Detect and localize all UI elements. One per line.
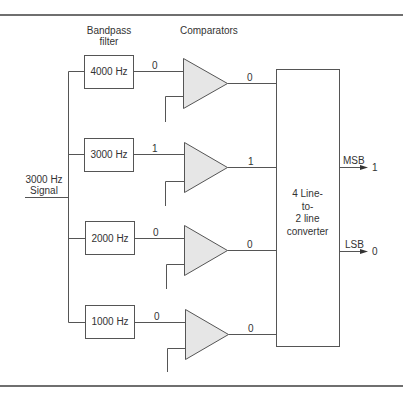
filter-header-line1: Bandpass xyxy=(84,25,134,36)
filter-header-line2: filter xyxy=(84,36,134,47)
reference-input-4 xyxy=(168,349,186,373)
filter-output-value-4: 0 xyxy=(154,311,160,322)
converter-line2: to- xyxy=(276,201,339,214)
lsb-label: LSB xyxy=(345,239,364,250)
comparator-4 xyxy=(186,310,229,360)
converter-label: 4 Line- to- 2 line converter xyxy=(276,188,339,238)
comparator-1 xyxy=(184,59,228,109)
comparator-output-value-3: 0 xyxy=(247,239,253,250)
comparator-2 xyxy=(185,143,228,193)
diagram-canvas xyxy=(0,0,407,394)
filter-label-1000: 1000 Hz xyxy=(85,316,135,327)
converter-line4: converter xyxy=(276,226,339,239)
comparator-output-value-1: 0 xyxy=(247,72,253,83)
filter-label-2000: 2000 Hz xyxy=(85,233,135,244)
filter-output-value-3: 0 xyxy=(153,227,159,238)
comparator-3 xyxy=(185,226,228,276)
reference-input-1 xyxy=(166,97,184,123)
comparator-output-value-2: 1 xyxy=(248,156,254,167)
converter-line3: 2 line xyxy=(276,213,339,226)
msb-label: MSB xyxy=(343,155,365,166)
input-signal-line2: Signal xyxy=(22,185,66,196)
msb-value: 1 xyxy=(372,162,378,173)
input-signal-label: 3000 Hz Signal xyxy=(22,174,66,196)
filter-output-value-2: 1 xyxy=(152,143,158,154)
filter-label-3000: 3000 Hz xyxy=(84,149,134,160)
filter-output-value-1: 0 xyxy=(152,60,158,71)
converter-line1: 4 Line- xyxy=(276,188,339,201)
comparators-header: Comparators xyxy=(180,25,238,36)
filter-header: Bandpass filter xyxy=(84,25,134,47)
reference-input-3 xyxy=(167,265,185,290)
input-signal-line1: 3000 Hz xyxy=(22,174,66,185)
lsb-value: 0 xyxy=(372,246,378,257)
filter-label-4000: 4000 Hz xyxy=(84,66,134,77)
comparator-output-value-4: 0 xyxy=(248,323,254,334)
reference-input-2 xyxy=(166,182,185,207)
